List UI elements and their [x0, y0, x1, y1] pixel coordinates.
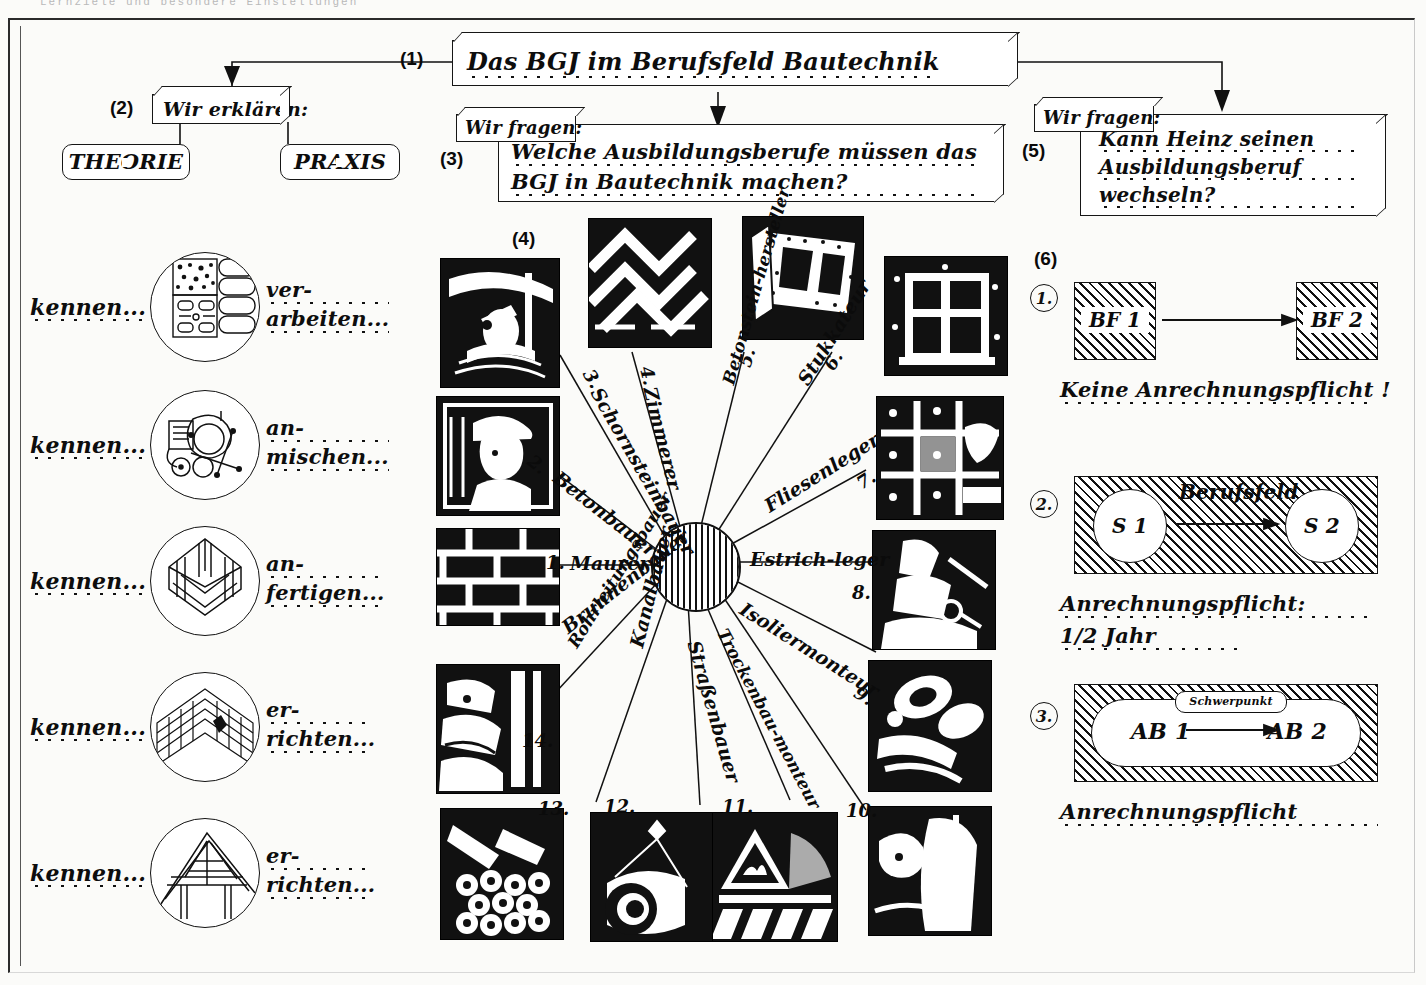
spoke-num-12: 12. — [604, 796, 635, 817]
trade-photo-tile-2 — [440, 258, 560, 388]
skill-row-3-verb-line2: fertigen... — [266, 581, 385, 605]
skill-row-1-verb-line1: ver- — [266, 278, 389, 302]
skill-row-3-verb-line1: an- — [266, 552, 385, 576]
ask-tab-right-box: Wir fragen: — [1034, 104, 1154, 132]
theorie-box: THEORIE — [62, 144, 190, 180]
skill-row-1-kennen: kennen... — [30, 295, 146, 320]
spoke-num-13: 13. — [538, 798, 569, 819]
rule-3-band-label: Schwerpunkt — [1189, 696, 1273, 708]
rule-1-number: 1. — [1030, 284, 1058, 312]
skill-row-4-verb-line2: richten... — [266, 727, 375, 751]
praxis-label: PRAXIS — [294, 150, 386, 174]
step-label-1: (1) — [400, 48, 423, 70]
rule-1-caption: Keine Anrechnungspflicht ! — [1060, 378, 1370, 402]
question-right-line-3: wechseln? — [1099, 184, 1357, 206]
roof-truss-icon — [150, 818, 260, 928]
question-right-line-2: Ausbildungsberuf — [1099, 156, 1357, 178]
skill-row-4-verb-line1: er- — [266, 698, 375, 722]
spoke-num-10: 10. — [846, 800, 877, 821]
rule-1-from-box: BF 1 — [1074, 282, 1156, 360]
skill-row-3: kennen... an- fertigen... — [30, 526, 385, 636]
explain-tab-box: Wir erklären: — [152, 94, 282, 124]
ask-tab-left-label: Wir fragen: — [465, 118, 582, 138]
skill-row-5-verb-line1: er- — [266, 844, 375, 868]
question-right-box: Kann Heinz seinen Ausbildungsberuf wechs… — [1080, 122, 1378, 216]
rule-1-to-label: BF 2 — [1303, 307, 1371, 333]
formwork-icon — [150, 526, 260, 636]
rule-3-number: 3. — [1030, 702, 1058, 730]
skill-row-5-kennen: kennen... — [30, 861, 146, 886]
skill-row-4-verb: er- richten... — [266, 698, 375, 755]
skill-row-1: kennen... — [30, 252, 389, 362]
skill-row-2-verb: an- mischen... — [266, 416, 389, 473]
rule-3-schwerpunkt-tag: Schwerpunkt — [1175, 691, 1287, 713]
theorie-label: THEORIE — [69, 150, 183, 174]
rule-1-from-label: BF 1 — [1081, 307, 1149, 333]
skill-row-1-verb-line2: arbeiten... — [266, 307, 389, 331]
step-label-3: (3) — [440, 148, 463, 170]
question-left-line-2: BGJ in Bautechnik machen? — [511, 170, 979, 194]
trade-photo-tile-8 — [872, 530, 996, 650]
explain-tab-label: Wir erklären: — [163, 99, 308, 120]
trade-photo-tile-10 — [868, 806, 992, 936]
trade-photo-tile-1-brickwall — [436, 528, 560, 626]
brick-corner-icon — [150, 672, 260, 782]
trade-photo-tile-14 — [436, 664, 560, 794]
praxis-box: PRAXIS — [280, 144, 400, 180]
rule-3-from-label: AB 1 — [1131, 719, 1190, 744]
spoke-label-8: Estrich-leger — [750, 548, 889, 570]
rule-2-from-circle: S 1 — [1093, 489, 1167, 563]
rule-2-to-label: S 2 — [1304, 515, 1340, 537]
skill-row-3-verb: an- fertigen... — [266, 552, 385, 609]
ask-tab-left-box: Wir fragen: — [456, 114, 576, 142]
skill-row-5-verb: er- richten... — [266, 844, 375, 901]
bricks-and-blocks-icon — [150, 252, 260, 362]
skill-row-5: kennen... er- richten... — [30, 818, 375, 928]
spoke-num-11: 11. — [722, 796, 753, 817]
trade-photo-tile-9 — [868, 660, 992, 792]
rule-2-caption: Anrechnungspflicht: — [1060, 592, 1370, 616]
spoke-num-8: 8. — [852, 582, 871, 603]
rule-3-to-label: AB 2 — [1268, 719, 1327, 744]
skill-row-4: kennen... er- richten... — [30, 672, 375, 782]
spoke-num-14: 14. — [522, 730, 553, 751]
trade-photo-tile-3 — [588, 218, 712, 348]
skill-row-2-verb-line1: an- — [266, 416, 389, 440]
rule-2-caption-2: 1/2 Jahr — [1060, 624, 1240, 648]
trade-photo-tile-11 — [712, 812, 838, 942]
skill-row-2-kennen: kennen... — [30, 433, 146, 458]
title-box: Das BGJ im Berufsfeld Bautechnik — [452, 40, 1010, 86]
trade-photo-tile-13 — [440, 808, 564, 940]
skill-row-4-kennen: kennen... — [30, 715, 146, 740]
rule-2-from-label: S 1 — [1112, 515, 1148, 537]
rule-1-to-box: BF 2 — [1296, 282, 1378, 360]
rule-3-band-box: Schwerpunkt AB 1 AB 2 — [1074, 684, 1378, 782]
skill-row-5-verb-line2: richten... — [266, 873, 375, 897]
title-text: Das BGJ im Berufsfeld Bautechnik — [467, 49, 940, 76]
step-label-2: (2) — [110, 97, 133, 119]
rule-2-number: 2. — [1030, 490, 1058, 518]
skill-row-3-kennen: kennen... — [30, 569, 146, 594]
cut-off-header-text: Lernziele und besondere Einstellungen — [40, 0, 740, 12]
question-left-box: Welche Ausbildungsberufe müssen das BGJ … — [498, 132, 996, 202]
ask-tab-right-label: Wir fragen: — [1043, 108, 1160, 128]
question-left-line-1: Welche Ausbildungsberufe müssen das — [511, 140, 979, 164]
step-label-5: (5) — [1022, 140, 1045, 162]
step-label-4: (4) — [512, 228, 535, 250]
spoke-num-1: 1. — [546, 552, 565, 573]
skill-row-2: kennen... — [30, 390, 389, 500]
trade-photo-tile-6 — [884, 256, 1008, 376]
step-label-6: (6) — [1034, 248, 1057, 270]
concrete-mixer-icon — [150, 390, 260, 500]
trade-photo-tile-7 — [876, 396, 1004, 520]
rule-2-band-label: Berufsfeld — [1179, 481, 1298, 503]
trade-photo-tile-12 — [590, 812, 714, 942]
skill-row-1-verb: ver- arbeiten... — [266, 278, 389, 335]
skill-row-2-verb-line2: mischen... — [266, 445, 389, 469]
rule-3-caption: Anrechnungspflicht — [1060, 800, 1378, 824]
worksheet-page: Lernziele und besondere Einstellungen (1… — [0, 0, 1426, 985]
rule-2-band-box: S 1 S 2 Berufsfeld — [1074, 476, 1378, 574]
